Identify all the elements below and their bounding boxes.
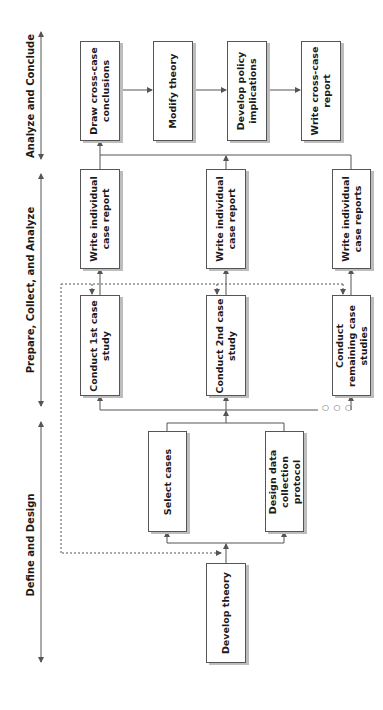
box-design-protocol: Design data collection protocol	[265, 431, 304, 532]
box-select-cases: Select cases	[148, 431, 187, 532]
box-draw-conclusions: Draw cross-case conclusions	[80, 41, 120, 141]
case-study-method-diagram: ○ ○ ○ Analyze and Conclude Prepare, Coll…	[0, 0, 383, 710]
box-report-remaining: Write individual case reports	[332, 169, 371, 269]
box-report-1: Write individual case report	[80, 169, 120, 269]
box-develop-theory: Develop theory	[206, 563, 246, 663]
ellipsis-dots: ○ ○ ○	[322, 403, 353, 412]
box-report-2: Write individual case report	[206, 169, 246, 269]
phase-analyze-conclude: Analyze and Conclude	[25, 34, 36, 158]
box-conduct-remaining: Conduct remaining case studies	[332, 295, 371, 396]
phase-define-design: Define and Design	[25, 493, 36, 596]
box-cross-case-report: Write cross-case report	[301, 41, 341, 141]
box-conduct-2: Conduct 2nd case study	[206, 295, 246, 396]
box-policy-implications: Develop policy implications	[227, 41, 267, 141]
box-modify-theory: Modify theory	[153, 41, 193, 141]
box-conduct-1: Conduct 1st case study	[80, 295, 120, 396]
phase-prepare-collect-analyze: Prepare, Collect, and Analyze	[25, 207, 36, 373]
